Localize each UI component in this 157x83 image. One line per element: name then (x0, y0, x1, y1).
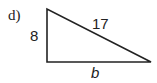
right-triangle-figure (0, 0, 157, 83)
side-label-base: b (91, 65, 99, 80)
side-label-hypotenuse: 17 (92, 16, 109, 31)
side-label-vertical: 8 (30, 28, 38, 43)
